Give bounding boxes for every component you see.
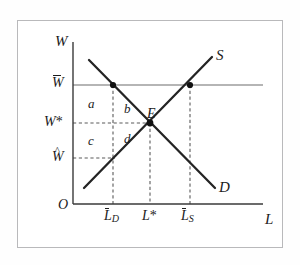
supply-curve-label: S bbox=[216, 48, 224, 63]
region-label-c: c bbox=[88, 134, 94, 147]
y-tick-w-star: W* bbox=[44, 115, 63, 129]
region-label-b: b bbox=[124, 102, 131, 115]
y-tick-w-bar-base: W bbox=[52, 75, 64, 90]
x-tick-l-s-base: L bbox=[181, 208, 189, 223]
x-axis-label: L bbox=[265, 212, 273, 227]
x-tick-l-star: L* bbox=[142, 209, 157, 223]
origin-label: O bbox=[58, 198, 68, 212]
demand-curve-label: D bbox=[219, 180, 230, 195]
plot-canvas bbox=[0, 0, 300, 265]
point-demand-at-wbar bbox=[110, 82, 116, 88]
y-tick-w-star-base: W bbox=[44, 114, 56, 129]
x-tick-l-s: LS bbox=[181, 209, 194, 224]
x-tick-l-star-base: L bbox=[142, 208, 150, 223]
x-tick-l-d: LD bbox=[104, 209, 119, 224]
region-label-d: d bbox=[124, 132, 131, 145]
y-axis-label: W bbox=[55, 34, 68, 49]
y-tick-w-hat: ^W bbox=[52, 150, 64, 164]
x-tick-l-d-base: L bbox=[104, 208, 112, 223]
y-tick-w-bar: W bbox=[52, 76, 64, 90]
x-tick-l-d-sub: D bbox=[112, 213, 119, 224]
equilibrium-point-label: E bbox=[147, 107, 156, 121]
figure-root: W L O W W* ^W LD L* LS S D E a b c d bbox=[0, 0, 300, 265]
region-label-a: a bbox=[88, 97, 95, 110]
point-supply-at-wbar bbox=[187, 82, 193, 88]
x-tick-l-s-sub: S bbox=[189, 213, 194, 224]
